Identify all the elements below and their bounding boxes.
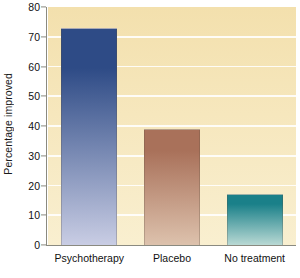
plot-area [48,7,296,245]
bar-no-treatment[interactable] [227,194,283,245]
y-axis-tick-label: 50 [28,90,40,102]
y-axis-tick-label: 40 [28,120,40,132]
y-axis-title-label: Percentage improved [2,73,14,175]
y-axis-tick-mark [41,36,46,37]
y-axis-tick-label: 0 [34,239,40,251]
x-axis-tick-label: No treatment [224,252,285,264]
y-axis-tick-mark [41,96,46,97]
y-axis-tick-label: 80 [28,1,40,13]
x-axis-tick-labels: PsychotherapyPlaceboNo treatment [48,250,296,276]
y-axis-tick-mark [41,66,46,67]
y-axis-tick-label: 10 [28,209,40,221]
y-axis-tick-mark [41,155,46,156]
y-axis-tick-labels: 01020304050607080 [16,0,43,252]
bar-chart-figure: Percentage improved 01020304050607080 Ps… [0,0,300,278]
y-axis-tick-label: 30 [28,150,40,162]
bar-placebo[interactable] [144,129,200,245]
x-axis-tick-label: Placebo [153,252,191,264]
y-axis-tick-mark [41,185,46,186]
y-axis-tick-mark [41,244,46,245]
x-axis-line [46,245,296,246]
bar-psychotherapy[interactable] [61,28,117,245]
x-axis-tick-label: Psychotherapy [55,252,124,264]
y-axis-tick-label: 20 [28,180,40,192]
y-axis-title: Percentage improved [0,0,16,248]
y-axis-tick-label: 60 [28,61,40,73]
y-axis-tick-mark [41,6,46,7]
y-axis-tick-mark [41,215,46,216]
y-axis-tick-mark [41,125,46,126]
y-axis-tick-label: 70 [28,31,40,43]
